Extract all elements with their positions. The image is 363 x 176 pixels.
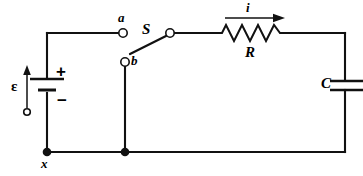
- emf-reference-terminal: [24, 109, 31, 116]
- label-resistor: R: [245, 45, 255, 60]
- label-terminal-a: a: [118, 11, 125, 24]
- terminal-b-contact[interactable]: [121, 58, 129, 66]
- label-battery-negative: −: [57, 92, 67, 109]
- emf-arrow-head: [23, 65, 31, 75]
- label-switch: S: [142, 22, 150, 37]
- label-battery-positive: +: [56, 63, 66, 80]
- terminal-a-contact[interactable]: [119, 29, 127, 37]
- current-arrow-head: [273, 14, 285, 22]
- junction-node-x: [43, 148, 52, 157]
- switch-blade[interactable]: [130, 36, 166, 54]
- label-emf: ε: [11, 79, 17, 94]
- label-terminal-b: b: [131, 54, 138, 67]
- circuit-schematic-canvas: [0, 0, 363, 176]
- resistor-zigzag: [218, 25, 285, 41]
- label-current: i: [246, 1, 250, 14]
- label-node-x: x: [41, 157, 48, 170]
- label-capacitor: C: [321, 76, 331, 91]
- circuit-diagram: a b S R i C x ε + −: [0, 0, 363, 176]
- junction-node-b-branch: [121, 148, 130, 157]
